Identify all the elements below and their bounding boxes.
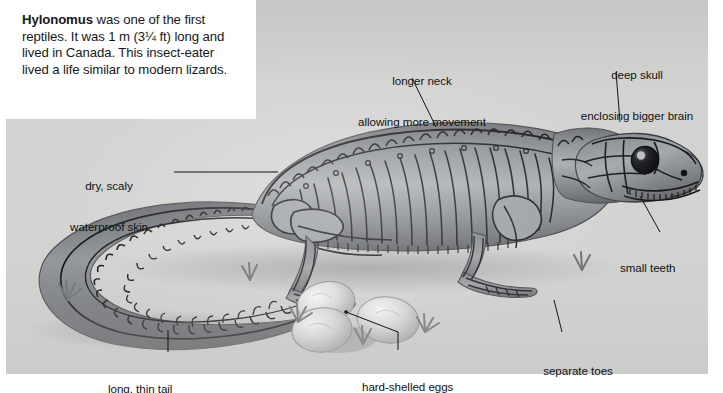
annotation-longer-neck: longer neck allowing more movement: [336, 47, 508, 156]
annotation-line2: allowing more movement: [336, 115, 508, 129]
annotation-line2: waterproof skin: [44, 220, 174, 234]
eye: [632, 147, 659, 174]
annotation-line1: dry, scaly: [44, 179, 174, 193]
annotation-deep-skull: deep skull enclosing bigger brain: [556, 41, 718, 150]
grass-tuft: [417, 314, 439, 332]
annotation-small-teeth: small teeth: [620, 234, 720, 302]
annotation-line1: long, thin tail: [108, 382, 218, 393]
annotation-separate-toes: separate toes and ‘fingers’: [516, 337, 640, 393]
annotation-line1: hard-shelled eggs: [362, 380, 492, 393]
eye-highlight: [637, 151, 645, 159]
annotation-long-thin-tail: long, thin tail: [108, 355, 218, 393]
annotation-line1: deep skull: [556, 68, 718, 82]
annotation-hard-shelled-eggs: hard-shelled eggs: [362, 353, 492, 393]
annotation-line1: small teeth: [620, 261, 720, 275]
caption-text: Hylonomus was one of the first reptiles.…: [22, 12, 240, 78]
genus-name: Hylonomus: [22, 12, 93, 27]
hylonomus-figure: Hylonomus was one of the first reptiles.…: [0, 0, 723, 393]
annotation-line1: longer neck: [336, 74, 508, 88]
annotation-line2: enclosing bigger brain: [556, 109, 718, 123]
annotation-line1: separate toes: [516, 364, 640, 378]
caption-box: Hylonomus was one of the first reptiles.…: [0, 0, 256, 119]
annotation-dry-scaly-skin: dry, scaly waterproof skin: [44, 152, 174, 261]
nostril: [681, 170, 687, 176]
pectoral-girdle: [493, 196, 542, 240]
